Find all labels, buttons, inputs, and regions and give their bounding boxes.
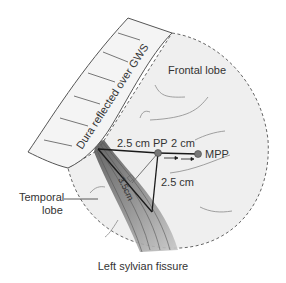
label-frontal-lobe: Frontal lobe <box>168 64 226 76</box>
label-temporal-2: lobe <box>42 204 63 216</box>
figure-caption: Left sylvian fissure <box>98 260 188 272</box>
label-pp-mpp: 2 cm <box>171 137 195 149</box>
label-mpp: MPP <box>205 148 229 160</box>
label-pp: PP <box>153 137 168 149</box>
label-pp-bottom: 2.5 cm <box>161 176 194 188</box>
sylvian-fissure-diagram: Frontal lobe Temporal lobe Dura reflecte… <box>0 0 286 283</box>
pp-point <box>155 150 162 157</box>
label-sylvian-pp: 2.5 cm <box>117 137 150 149</box>
mpp-point <box>195 151 202 158</box>
label-temporal-1: Temporal <box>19 191 64 203</box>
